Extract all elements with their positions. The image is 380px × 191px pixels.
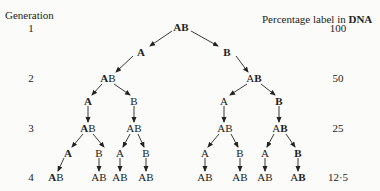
unlabelled-strand-letter: A [126, 122, 134, 134]
strand-node: A [64, 148, 72, 159]
strand-node: B [142, 148, 149, 159]
arrow [123, 134, 130, 147]
labelled-strand-letter: B [254, 72, 261, 84]
labelled-strand-letter: B [298, 171, 305, 183]
arrow [93, 134, 104, 147]
strand-node: A [261, 148, 269, 159]
strand-node: AB [80, 123, 95, 134]
arrow [261, 84, 275, 95]
strand-node: B [130, 96, 137, 107]
strand-node: A [137, 47, 145, 58]
unlabelled-strand-letter: B [99, 171, 106, 183]
unlabelled-strand-letter: B [134, 122, 141, 134]
arrow [150, 31, 172, 46]
unlabelled-strand-letter: A [261, 147, 269, 159]
strand-node: AB [112, 172, 127, 183]
arrow [72, 134, 83, 147]
unlabelled-strand-letter: B [225, 122, 232, 134]
labelled-strand-letter: B [181, 21, 188, 33]
labelled-strand-letter: A [100, 72, 108, 84]
unlabelled-strand-letter: A [116, 147, 124, 159]
arrow [92, 84, 102, 95]
unlabelled-strand-letter: B [205, 171, 212, 183]
labelled-strand-letter: B [280, 122, 287, 134]
strand-node: AB [91, 172, 106, 183]
unlabelled-strand-letter: B [236, 147, 243, 159]
unlabelled-strand-letter: B [142, 147, 149, 159]
unlabelled-strand-letter: A [217, 122, 225, 134]
strand-node: AB [48, 172, 63, 183]
arrow [208, 134, 219, 147]
arrow [236, 56, 248, 72]
arrow [267, 134, 274, 147]
unlabelled-strand-letter: A [290, 171, 298, 183]
arrow [114, 84, 130, 95]
unlabelled-strand-letter: B [56, 171, 63, 183]
unlabelled-strand-letter: B [240, 171, 247, 183]
unlabelled-strand-letter: B [95, 147, 102, 159]
strand-node: B [95, 148, 102, 159]
unlabelled-strand-letter: A [201, 147, 209, 159]
arrow [138, 134, 144, 147]
unlabelled-strand-letter: B [146, 171, 153, 183]
unlabelled-strand-letter: B [120, 171, 127, 183]
strand-node: A [201, 148, 209, 159]
strand-node: AB [272, 123, 287, 134]
labelled-strand-letter: A [48, 171, 56, 183]
arrow [58, 158, 64, 171]
unlabelled-strand-letter: A [272, 122, 280, 134]
strand-node: AB [100, 73, 115, 84]
labelled-strand-letter: A [173, 21, 181, 33]
arrow [191, 31, 218, 46]
strand-node: A [116, 148, 124, 159]
arrow [230, 84, 247, 95]
strand-node: AB [257, 172, 272, 183]
unlabelled-strand-letter: A [257, 171, 265, 183]
labelled-strand-letter: B [275, 95, 282, 107]
arrow [116, 56, 133, 72]
strand-node: AB [126, 123, 141, 134]
unlabelled-strand-letter: B [130, 95, 137, 107]
strand-node: AB [197, 172, 212, 183]
unlabelled-strand-letter: B [265, 171, 272, 183]
unlabelled-strand-letter: A [246, 72, 254, 84]
arrow-layer [0, 0, 380, 191]
strand-node: AB [290, 172, 305, 183]
unlabelled-strand-letter: B [88, 122, 95, 134]
strand-node: AB [173, 22, 188, 33]
labelled-strand-letter: B [294, 147, 301, 159]
labelled-strand-letter: A [84, 95, 92, 107]
labelled-strand-letter: B [223, 46, 230, 58]
strand-node: AB [246, 73, 261, 84]
unlabelled-strand-letter: B [108, 72, 115, 84]
unlabelled-strand-letter: A [232, 171, 240, 183]
strand-node: A [220, 96, 228, 107]
labelled-strand-letter: A [80, 122, 88, 134]
unlabelled-strand-letter: A [138, 171, 146, 183]
strand-node: A [84, 96, 92, 107]
strand-node: AB [232, 172, 247, 183]
unlabelled-strand-letter: A [197, 171, 205, 183]
strand-node: B [236, 148, 243, 159]
strand-node: AB [138, 172, 153, 183]
strand-node: B [275, 96, 282, 107]
unlabelled-strand-letter: A [91, 171, 99, 183]
arrow [231, 134, 238, 147]
arrow [286, 134, 295, 147]
unlabelled-strand-letter: A [220, 95, 228, 107]
labelled-strand-letter: A [137, 46, 145, 58]
labelled-strand-letter: A [64, 147, 72, 159]
strand-node: AB [217, 123, 232, 134]
strand-node: B [294, 148, 301, 159]
strand-node: B [223, 47, 230, 58]
unlabelled-strand-letter: A [112, 171, 120, 183]
